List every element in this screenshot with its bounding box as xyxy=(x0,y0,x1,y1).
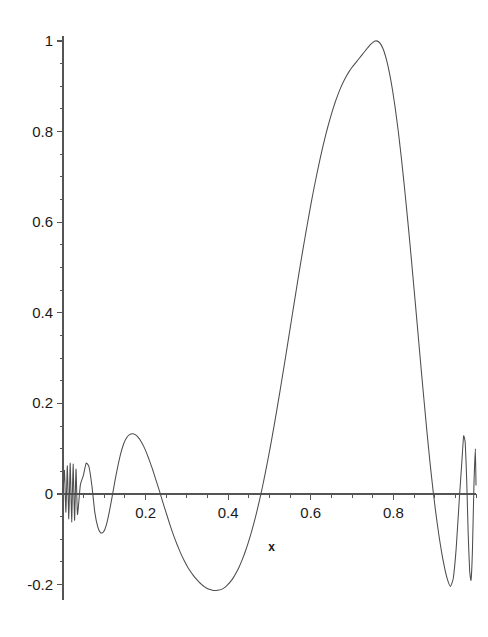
chart-annotations: x xyxy=(268,540,275,554)
y-tick-label: 0.4 xyxy=(32,304,53,321)
y-axis-ticks xyxy=(57,41,63,585)
y-axis-tick-labels: -0.200.20.40.60.81 xyxy=(27,32,53,593)
y-tick-label: 0.8 xyxy=(32,123,53,140)
data-curve-series-0 xyxy=(63,41,476,591)
y-tick-label: 0.6 xyxy=(32,213,53,230)
plot-canvas: -0.200.20.40.60.81 0.20.40.60.8 x xyxy=(0,0,488,637)
y-tick-label: 0.2 xyxy=(32,394,53,411)
x-axis-title: x xyxy=(268,540,275,554)
y-tick-label: 1 xyxy=(45,32,53,49)
x-tick-label: 0.6 xyxy=(300,504,321,521)
x-tick-label: 0.8 xyxy=(383,504,404,521)
x-axis-ticks xyxy=(63,494,476,500)
chart-figure: -0.200.20.40.60.81 0.20.40.60.8 x xyxy=(0,0,488,637)
x-tick-label: 0.4 xyxy=(218,504,239,521)
x-tick-label: 0.2 xyxy=(135,504,156,521)
y-tick-label: -0.2 xyxy=(27,576,53,593)
x-axis-tick-labels: 0.20.40.60.8 xyxy=(135,504,404,521)
y-tick-label: 0 xyxy=(45,485,53,502)
